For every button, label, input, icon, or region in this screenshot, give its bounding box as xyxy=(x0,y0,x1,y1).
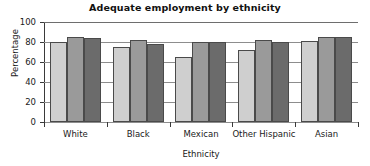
y-tick-label: 0 xyxy=(0,118,36,127)
bar xyxy=(335,37,352,122)
y-tick-mark xyxy=(40,42,44,43)
bar-group xyxy=(295,22,358,122)
y-tick-mark xyxy=(40,82,44,83)
y-tick-label: 80 xyxy=(0,38,36,47)
bar xyxy=(301,41,318,122)
y-tick-label: 40 xyxy=(0,78,36,87)
x-tick-label: Asian xyxy=(295,129,358,139)
bar xyxy=(175,57,192,122)
bar-group xyxy=(44,22,107,122)
bar xyxy=(255,40,272,122)
gridline xyxy=(44,122,358,123)
x-tick-mark xyxy=(232,122,233,127)
bar xyxy=(192,42,209,122)
y-tick-mark xyxy=(40,102,44,103)
bar xyxy=(147,44,164,122)
bar xyxy=(318,37,335,122)
bar-group xyxy=(170,22,233,122)
x-tick-mark xyxy=(170,122,171,127)
y-tick-label: 20 xyxy=(0,98,36,107)
bar xyxy=(113,47,130,122)
x-tick-mark xyxy=(44,122,45,127)
x-tick-mark xyxy=(107,122,108,127)
x-axis-label: Ethnicity xyxy=(44,149,358,159)
bar xyxy=(272,42,289,122)
x-tick-mark xyxy=(358,122,359,127)
bar-group xyxy=(232,22,295,122)
y-tick-label: 100 xyxy=(0,18,36,27)
bar xyxy=(130,40,147,122)
y-tick-label: 60 xyxy=(0,58,36,67)
bar-series-container xyxy=(44,22,358,122)
x-tick-label: Black xyxy=(107,129,170,139)
bar-group xyxy=(107,22,170,122)
x-tick-label: White xyxy=(44,129,107,139)
bar xyxy=(209,42,226,122)
bar-chart-figure: Adequate employment by ethnicity Percent… xyxy=(0,0,370,166)
bar xyxy=(67,37,84,122)
x-tick-label: Mexican xyxy=(170,129,233,139)
chart-title: Adequate employment by ethnicity xyxy=(0,2,370,13)
bar xyxy=(50,42,67,122)
bar xyxy=(84,38,101,122)
y-tick-mark xyxy=(40,22,44,23)
y-tick-mark xyxy=(40,62,44,63)
plot-area xyxy=(44,22,358,122)
bar xyxy=(238,50,255,122)
x-tick-label: Other Hispanic xyxy=(232,129,295,139)
x-tick-mark xyxy=(295,122,296,127)
